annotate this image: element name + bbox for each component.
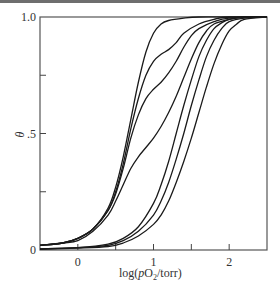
x-axis-title: log(pO2/torr): [119, 267, 182, 284]
y-tick-label: 1.0: [21, 11, 36, 23]
curve-6: [40, 17, 267, 249]
curves: [40, 17, 267, 249]
y-axis-title: θ: [13, 132, 28, 138]
x-tick-label: 0: [75, 256, 81, 268]
curve-3: [40, 17, 267, 245]
y-tick-label: 0: [30, 244, 36, 256]
x-tick-label: 2: [226, 256, 232, 268]
curve-1: [40, 17, 267, 245]
curve-4: [40, 17, 267, 246]
curve-2: [40, 17, 267, 246]
x-axis-title-suffix: /torr): [157, 266, 182, 280]
x-axis-title-main: O: [144, 266, 153, 280]
x-axis-title-prefix: log(: [119, 266, 138, 280]
chart-canvas: [0, 0, 280, 296]
